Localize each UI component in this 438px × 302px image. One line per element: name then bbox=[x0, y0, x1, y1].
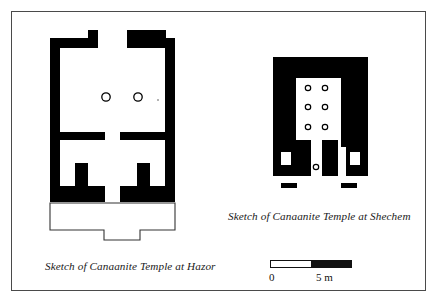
shechem-temple-plan bbox=[0, 0, 438, 302]
shechem-left-corridor-wall bbox=[295, 140, 305, 176]
shechem-column-base bbox=[322, 124, 327, 129]
scale-bar-max-label: 5 m bbox=[316, 271, 333, 283]
shechem-column-base bbox=[305, 85, 310, 90]
figure-border-frame: Sketch of Canaanite Temple at Hazor Sket… bbox=[11, 11, 426, 291]
shechem-entrance-corridor bbox=[311, 140, 322, 176]
shechem-caption: Sketch of Canaanite Temple at Shechem bbox=[228, 210, 411, 222]
shechem-column-base bbox=[322, 85, 327, 90]
shechem-corridor-column-base bbox=[313, 164, 318, 169]
scale-bar-track bbox=[270, 260, 352, 268]
scale-bar-min-label: 0 bbox=[269, 271, 275, 283]
shechem-right-corridor-wall bbox=[328, 140, 338, 176]
shechem-pillar-socket bbox=[281, 152, 291, 165]
figure-root: Sketch of Canaanite Temple at Hazor Sket… bbox=[0, 0, 438, 302]
shechem-column-base bbox=[322, 104, 327, 109]
hazor-caption: Sketch of Canaanite Temple at Hazor bbox=[45, 260, 216, 272]
shechem-inner-cella bbox=[296, 78, 341, 140]
shechem-forecourt-marker bbox=[341, 183, 357, 188]
scale-bar: 0 5 m bbox=[270, 260, 352, 268]
scale-bar-filled-half bbox=[311, 261, 351, 267]
shechem-pillar-socket bbox=[350, 152, 360, 165]
shechem-forecourt-marker bbox=[281, 183, 297, 188]
shechem-column-base bbox=[305, 104, 310, 109]
shechem-column-base bbox=[305, 124, 310, 129]
